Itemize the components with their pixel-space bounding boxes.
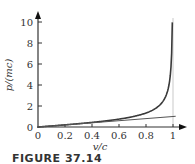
y-axis-title: p/(mc) bbox=[3, 59, 14, 92]
figure-caption: FIGURE 37.14 bbox=[12, 152, 102, 164]
y-tick-label: 6 bbox=[27, 59, 33, 70]
x-axis-arrow-icon bbox=[179, 124, 187, 130]
x-tick-label: 0.4 bbox=[84, 130, 100, 141]
classical-momentum-line bbox=[38, 116, 176, 127]
y-tick-label: 2 bbox=[27, 101, 33, 112]
y-tick-label: 0 bbox=[27, 122, 33, 133]
momentum-vs-speed-chart: 00.20.40.60.81 0246810 v/c p/(mc) bbox=[0, 0, 195, 164]
x-axis-title: v/c bbox=[93, 141, 108, 152]
x-tick-label: 0 bbox=[35, 130, 41, 141]
relativistic-momentum-curve bbox=[38, 22, 172, 127]
y-tick-label: 4 bbox=[27, 80, 33, 91]
axes bbox=[35, 11, 187, 130]
y-tick-label: 10 bbox=[20, 17, 33, 28]
x-tick-label: 0.8 bbox=[138, 130, 154, 141]
x-tick-label: 0.2 bbox=[57, 130, 73, 141]
data-series bbox=[38, 22, 176, 127]
y-ticks: 0246810 bbox=[20, 17, 42, 133]
y-tick-label: 8 bbox=[27, 38, 33, 49]
y-axis-arrow-icon bbox=[35, 11, 41, 19]
x-tick-label: 0.6 bbox=[111, 130, 127, 141]
x-tick-label: 1 bbox=[170, 130, 176, 141]
